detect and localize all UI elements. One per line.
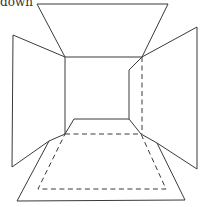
floor-fold-line	[38, 134, 166, 189]
unfolded-room-diagram	[0, 0, 202, 207]
floor-back-edge	[65, 119, 141, 134]
floor-panel	[17, 141, 185, 201]
right-wall-panel	[141, 27, 197, 169]
left-wall-panel	[12, 35, 65, 167]
back-wall-right-edge	[129, 57, 142, 119]
ceiling-panel	[37, 4, 168, 57]
